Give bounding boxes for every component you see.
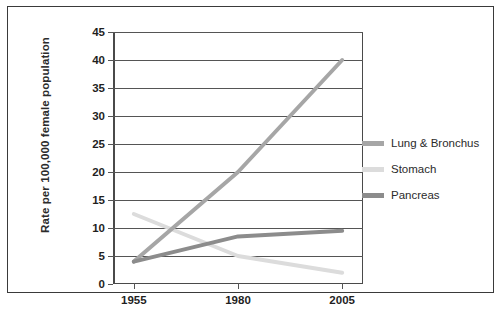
chart-figure: Rate per 100,000 female population 05101… [0, 0, 502, 309]
y-tick-label: 10 [92, 222, 105, 234]
series-lines [113, 32, 363, 284]
legend-item: Lung & Bronchus [362, 130, 492, 156]
figure-caption [8, 299, 308, 309]
plot-area: 051015202530354045 195519802005 [113, 32, 363, 284]
legend-label: Pancreas [391, 189, 440, 201]
y-tick-label: 5 [99, 250, 105, 262]
y-tick-label: 45 [92, 26, 105, 38]
y-tick-mark [108, 284, 113, 285]
y-tick-label: 20 [92, 166, 105, 178]
series-line [134, 214, 342, 273]
x-tick-label: 2005 [329, 294, 355, 306]
legend-item: Pancreas [362, 182, 492, 208]
legend-swatch-icon [362, 167, 384, 172]
y-axis-title: Rate per 100,000 female population [39, 20, 51, 250]
y-tick-label: 25 [92, 138, 105, 150]
legend-swatch-icon [362, 193, 384, 198]
y-tick-label: 0 [99, 278, 105, 290]
chart-legend: Lung & BronchusStomachPancreas [362, 130, 492, 208]
y-tick-label: 40 [92, 54, 105, 66]
y-tick-label: 35 [92, 82, 105, 94]
legend-label: Lung & Bronchus [391, 137, 479, 149]
y-tick-label: 15 [92, 194, 105, 206]
legend-swatch-icon [362, 141, 384, 146]
legend-label: Stomach [391, 163, 436, 175]
legend-item: Stomach [362, 156, 492, 182]
y-tick-label: 30 [92, 110, 105, 122]
